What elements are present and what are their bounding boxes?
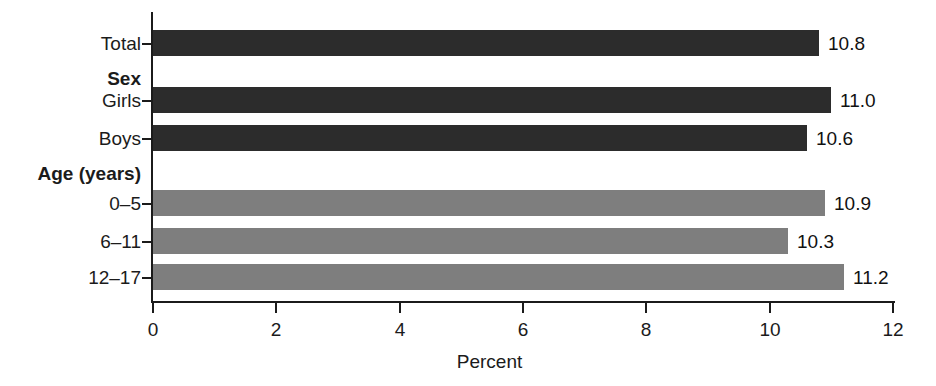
x-axis-tick-label: 12 (882, 320, 903, 339)
bar (153, 87, 831, 113)
x-axis-tick-label: 6 (518, 320, 529, 339)
bar-value-label: 10.3 (797, 232, 834, 251)
x-axis-tick (152, 303, 154, 313)
bar (153, 264, 844, 290)
category-label: Boys (99, 129, 141, 148)
category-axis-labels: TotalSexGirlsBoysAge (years)0–56–1112–17 (0, 0, 141, 386)
x-axis-tick (522, 303, 524, 313)
bar-value-label: 10.6 (816, 129, 853, 148)
x-axis-tick-label: 10 (759, 320, 780, 339)
x-axis-tick (645, 303, 647, 313)
group-header-label: Sex (107, 69, 141, 88)
bar (153, 125, 807, 151)
x-axis-title: Percent (0, 352, 936, 371)
x-axis-tick-label: 4 (395, 320, 406, 339)
x-axis-tick (892, 303, 894, 313)
x-axis-tick-label: 2 (271, 320, 282, 339)
x-axis-tick (399, 303, 401, 313)
bar-value-label: 10.9 (834, 194, 871, 213)
x-axis-tick (275, 303, 277, 313)
bar-chart: TotalSexGirlsBoysAge (years)0–56–1112–17… (0, 0, 936, 386)
bar-value-label: 11.0 (840, 91, 876, 110)
category-label: Girls (102, 91, 141, 110)
x-axis-tick-label: 8 (641, 320, 652, 339)
bar (153, 190, 825, 216)
x-axis-title-text: Percent (457, 352, 522, 371)
x-axis-tick (769, 303, 771, 313)
bar-value-label: 10.8 (828, 34, 865, 53)
category-label: 12–17 (88, 268, 141, 287)
group-header-label: Age (years) (38, 164, 142, 183)
category-label: 0–5 (109, 194, 141, 213)
bar (153, 30, 819, 56)
bar (153, 228, 788, 254)
category-label: Total (101, 34, 141, 53)
category-label: 6–11 (100, 232, 141, 251)
x-axis-tick-label: 0 (148, 320, 159, 339)
bar-value-label: 11.2 (853, 268, 889, 287)
